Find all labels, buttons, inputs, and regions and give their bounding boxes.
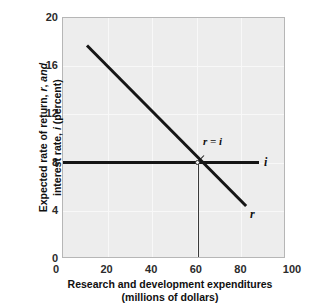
gridline-horizontal <box>63 114 284 115</box>
plot-area: r = i i r <box>62 17 285 258</box>
y-axis-title-seg-d: (percent) <box>51 79 63 127</box>
gridline-vertical <box>152 18 153 257</box>
xtick-label: 0 <box>53 264 59 275</box>
equilibrium-label: r = i <box>203 136 222 147</box>
series-label-i: i <box>264 156 267 168</box>
y-axis-title-seg-c: interest rate, <box>51 130 63 196</box>
series-line-i <box>63 161 259 164</box>
y-axis-title-var-i: i <box>51 127 63 130</box>
xtick-label: 20 <box>100 264 112 275</box>
chart-figure: r = i i r 20 16 12 8 4 0 0 20 40 60 80 1… <box>0 0 313 308</box>
xtick-label: 40 <box>145 264 157 275</box>
y-axis-title-word-and: and <box>37 63 49 82</box>
xtick-label: 100 <box>283 264 301 275</box>
series-line-r <box>86 45 247 208</box>
y-axis-title-seg-a: Expected rate of return, <box>37 92 49 213</box>
x-axis-title-line2: (millions of dollars) <box>40 291 300 304</box>
xtick-label: 80 <box>234 264 246 275</box>
equilibrium-dropline <box>198 163 199 258</box>
gridline-vertical <box>108 18 109 257</box>
y-axis-title-seg-b: , <box>37 82 49 88</box>
y-axis-title-line2: interest rate, i (percent) <box>51 13 65 263</box>
xtick-label: 60 <box>190 264 202 275</box>
gridline-horizontal <box>63 66 284 67</box>
y-axis-title-var-r: r <box>37 87 49 91</box>
equilibrium-marker <box>195 160 200 165</box>
y-axis-title-line1: Expected rate of return, r, and <box>37 63 49 212</box>
gridline-vertical <box>241 18 242 257</box>
series-label-r: r <box>250 208 255 220</box>
x-axis-title: Research and development expenditures (m… <box>40 278 300 304</box>
x-axis-title-line1: Research and development expenditures <box>68 278 273 290</box>
y-axis-title: Expected rate of return, r, and interest… <box>37 13 64 263</box>
